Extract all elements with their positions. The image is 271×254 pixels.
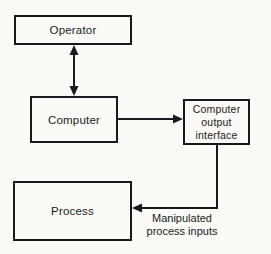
node-computer-label: Computer — [48, 114, 100, 126]
node-computer-output-interface-label-line1: Computer — [193, 103, 241, 116]
arrowhead-right-icon — [173, 115, 183, 124]
manipulated-process-inputs-label-line1: Manipulated — [134, 212, 230, 225]
interface-process-elbow-line — [141, 145, 217, 208]
node-operator-label: Operator — [50, 24, 97, 36]
interface-process-arrow — [132, 145, 217, 213]
node-computer-output-interface: Computer output interface — [183, 99, 250, 145]
computer-interface-arrow — [118, 115, 183, 124]
arrowhead-up-icon — [70, 45, 79, 55]
arrowhead-down-icon — [70, 86, 79, 96]
node-operator: Operator — [14, 15, 132, 45]
process-control-diagram: { "diagram": { "nodes": { "operator": { … — [0, 0, 271, 254]
node-process-label: Process — [51, 205, 94, 217]
node-computer-output-interface-label-line2: output — [201, 116, 231, 129]
manipulated-process-inputs-label-line2: process inputs — [134, 225, 230, 238]
node-process: Process — [13, 181, 132, 241]
node-computer-output-interface-label-line3: interface — [195, 129, 237, 142]
operator-computer-double-arrow — [70, 45, 79, 96]
diagram-stage: Operator Computer Computer output interf… — [0, 0, 271, 254]
node-computer: Computer — [30, 96, 118, 143]
manipulated-process-inputs-label: Manipulated process inputs — [134, 212, 230, 237]
